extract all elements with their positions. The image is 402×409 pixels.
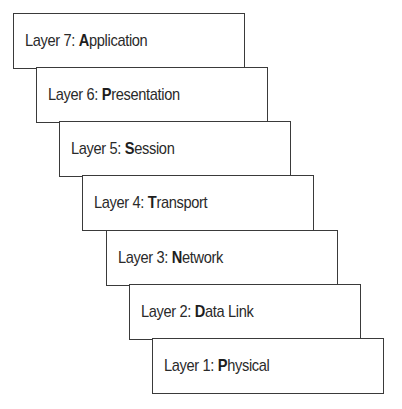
layer-2-data-link-box: Layer 2: Data Link bbox=[129, 284, 361, 340]
layer-name-rest: ata Link bbox=[205, 302, 253, 321]
layer-4-transport-box: Layer 4: Transport bbox=[82, 175, 314, 231]
layer-name-rest: hysical bbox=[227, 356, 269, 375]
layer-initial: N bbox=[172, 248, 182, 267]
layer-name-rest: resentation bbox=[111, 85, 180, 104]
layer-name-rest: pplication bbox=[89, 31, 147, 50]
layer-label-prefix: Layer 6: bbox=[48, 85, 102, 104]
layer-label-prefix: Layer 4: bbox=[94, 193, 148, 212]
layer-5-session-box: Layer 5: Session bbox=[59, 121, 291, 177]
layer-name-rest: ession bbox=[134, 139, 174, 158]
layer-1-physical-box: Layer 1: Physical bbox=[152, 338, 384, 394]
layer-label-prefix: Layer 1: bbox=[164, 356, 218, 375]
layer-3-network-box: Layer 3: Network bbox=[106, 230, 338, 286]
layer-initial: D bbox=[195, 302, 205, 321]
layer-initial: S bbox=[125, 139, 134, 158]
layer-6-presentation-box: Layer 6: Presentation bbox=[36, 67, 268, 123]
layer-initial: P bbox=[102, 85, 111, 104]
layer-initial: P bbox=[218, 356, 227, 375]
layer-label-prefix: Layer 3: bbox=[118, 248, 172, 267]
layer-name-rest: etwork bbox=[182, 248, 223, 267]
layer-initial: T bbox=[148, 193, 157, 212]
layer-initial: A bbox=[79, 31, 89, 50]
layer-label-prefix: Layer 5: bbox=[71, 139, 125, 158]
layer-label-prefix: Layer 7: bbox=[25, 31, 79, 50]
layer-name-rest: ransport bbox=[156, 193, 207, 212]
layer-7-application-box: Layer 7: Application bbox=[13, 13, 245, 69]
layer-label-prefix: Layer 2: bbox=[141, 302, 195, 321]
